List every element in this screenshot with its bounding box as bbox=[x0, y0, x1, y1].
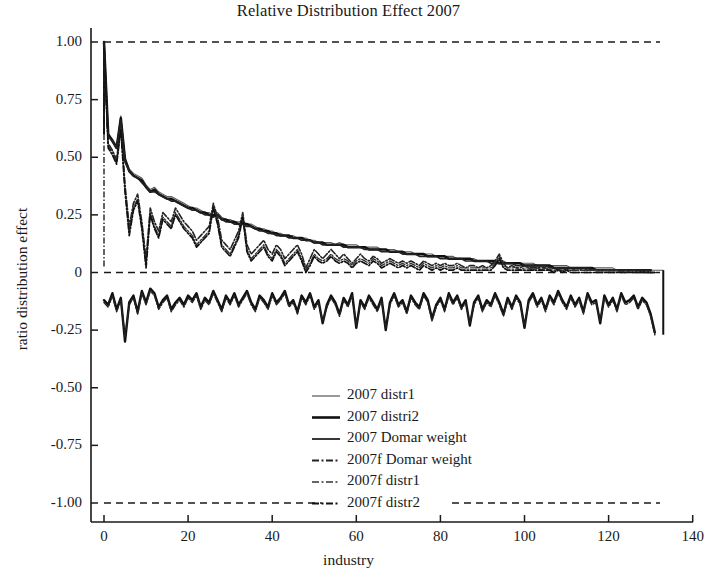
legend-label: 2007 distri2 bbox=[347, 409, 419, 424]
series-line bbox=[104, 289, 655, 342]
legend-label: 2007f Domar weight bbox=[347, 452, 472, 467]
legend-label: 2007 distr1 bbox=[347, 387, 415, 402]
series-line bbox=[104, 42, 655, 273]
legend-label: 2007 Domar weight bbox=[347, 430, 467, 445]
legend-line-samples bbox=[312, 396, 340, 504]
legend-label: 2007f distr1 bbox=[347, 473, 420, 488]
axes bbox=[91, 28, 693, 522]
series-line bbox=[104, 42, 663, 270]
series-line bbox=[104, 42, 651, 270]
series-line bbox=[104, 42, 655, 273]
series-line bbox=[104, 42, 651, 270]
series-line bbox=[104, 42, 655, 273]
legend-label: 2007f distr2 bbox=[347, 495, 420, 510]
data-series bbox=[104, 42, 663, 342]
